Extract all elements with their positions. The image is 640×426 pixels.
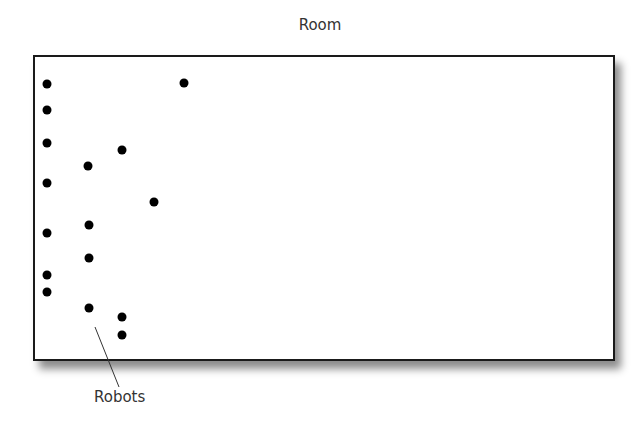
robot-dot bbox=[85, 221, 94, 230]
robots-label: Robots bbox=[94, 388, 145, 406]
robot-dot bbox=[118, 313, 127, 322]
robot-dot bbox=[43, 179, 52, 188]
robot-dot bbox=[43, 106, 52, 115]
robot-dot bbox=[118, 146, 127, 155]
robot-dot bbox=[43, 288, 52, 297]
robot-dot bbox=[118, 331, 127, 340]
robot-dot bbox=[43, 229, 52, 238]
robot-dot bbox=[43, 80, 52, 89]
robot-dot bbox=[150, 198, 159, 207]
robot-dot bbox=[85, 254, 94, 263]
robot-dot bbox=[43, 271, 52, 280]
robot-dot bbox=[84, 162, 93, 171]
robot-dot bbox=[43, 139, 52, 148]
room-title: Room bbox=[0, 16, 640, 34]
robot-dot bbox=[85, 304, 94, 313]
robot-dot bbox=[180, 79, 189, 88]
